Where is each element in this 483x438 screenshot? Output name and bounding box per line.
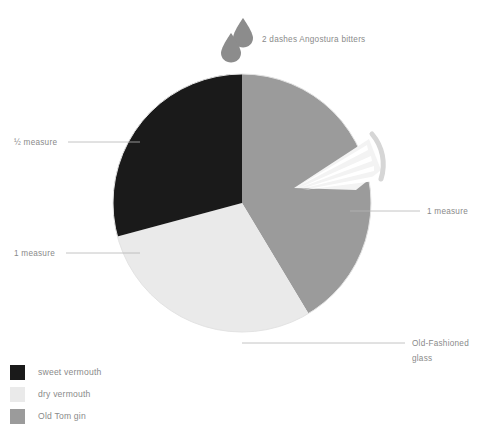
legend-swatch-sweet-vermouth	[10, 365, 25, 380]
legend-label-old-tom-gin: Old Tom gin	[38, 411, 86, 421]
gin-callout-label: 1 measure	[427, 205, 468, 218]
legend: sweet vermouth dry vermouth Old Tom gin	[10, 362, 200, 428]
legend-swatch-old-tom-gin	[10, 409, 25, 424]
bitters-label: 2 dashes Angostura bitters	[262, 33, 365, 46]
legend-label-dry-vermouth: dry vermouth	[38, 389, 91, 399]
legend-item-dry-vermouth[interactable]: dry vermouth	[10, 384, 200, 404]
legend-item-sweet-vermouth[interactable]: sweet vermouth	[10, 362, 200, 382]
glass-callout-label-line1: Old-Fashioned	[412, 337, 469, 350]
sweet-vermouth-callout-label: ½ measure	[14, 136, 57, 149]
legend-swatch-dry-vermouth	[10, 387, 25, 402]
legend-item-old-tom-gin[interactable]: Old Tom gin	[10, 406, 200, 426]
dry-vermouth-callout-label: 1 measure	[14, 247, 55, 260]
glass-callout-label-line2: glass	[412, 352, 432, 365]
legend-label-sweet-vermouth: sweet vermouth	[38, 367, 101, 377]
droplet-icon-group	[221, 18, 253, 63]
figure-canvas: 2 dashes Angostura bitters ½ measure 1 m…	[0, 0, 483, 438]
